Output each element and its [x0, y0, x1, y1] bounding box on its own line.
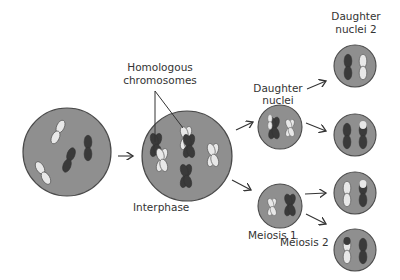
interphase-label: Interphase: [133, 201, 189, 213]
meiosis-diagram: Homologous chromosomes Interphase Daught…: [0, 0, 400, 280]
daughter-nuclei-label: Daughter: [253, 82, 303, 94]
meiosis2-label: Meiosis 2: [280, 236, 329, 248]
arrow: [236, 122, 253, 130]
daughter-nuclei-label: nuclei: [262, 94, 293, 106]
daughter-nuclei-2-label: Daughter: [331, 10, 381, 22]
daughter-nucleus-2-c: [334, 172, 376, 214]
daughter-nucleus-2-d: [334, 229, 376, 271]
arrow: [232, 180, 251, 190]
daughter-nucleus-2-b: [334, 114, 376, 156]
arrow: [307, 81, 326, 89]
daughter-nucleus-bottom: [258, 184, 302, 228]
homologous-label: chromosomes: [123, 74, 197, 86]
daughter-nucleus-2-a: [334, 45, 376, 87]
daughter-nucleus-top: [258, 105, 302, 149]
arrow: [306, 214, 326, 224]
interphase-cell: [23, 108, 111, 196]
daughter-nuclei-2-label: nuclei 2: [335, 23, 376, 35]
homologous-label: Homologous: [127, 61, 193, 73]
arrow: [305, 193, 326, 194]
arrow: [306, 123, 326, 131]
